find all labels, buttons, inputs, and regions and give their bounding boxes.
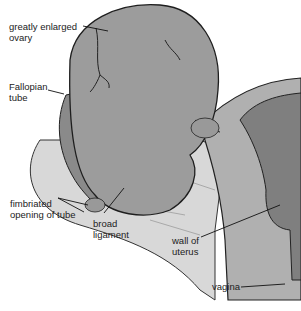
anatomy-illustration <box>0 0 301 311</box>
label-broad-ligament: broad ligament <box>93 219 129 240</box>
label-fallopian-tube: Fallopian tube <box>9 82 48 103</box>
label-ovary: greatly enlarged ovary <box>9 22 77 43</box>
label-wall-of-uterus: wall of uterus <box>172 236 199 257</box>
label-fimbriated-opening: fimbriated opening of tube <box>10 199 76 220</box>
label-vagina: vagina <box>212 282 240 293</box>
